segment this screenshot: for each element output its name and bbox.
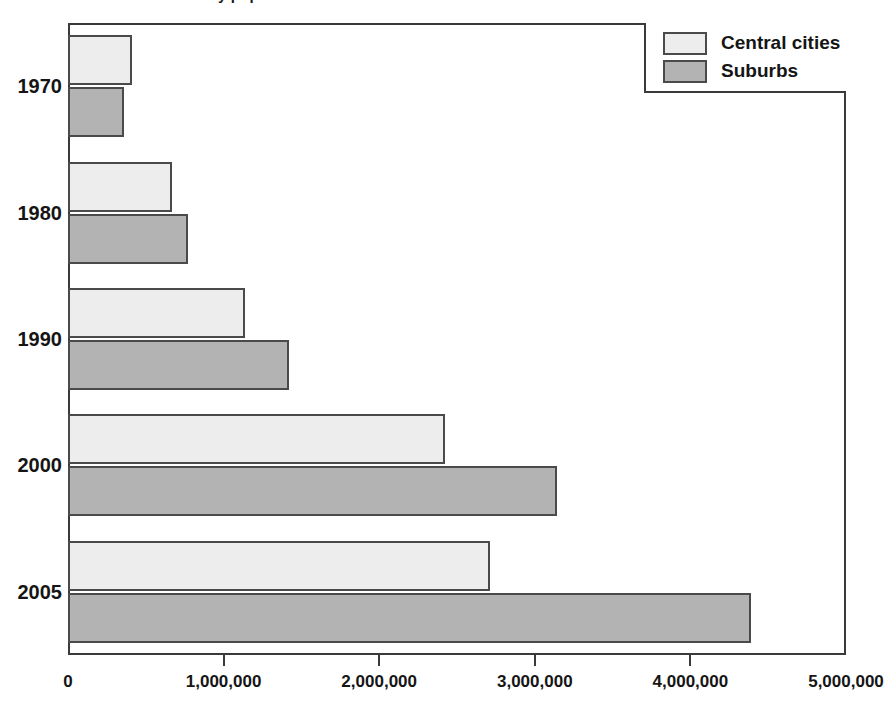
y-axis-label-1970: 1970 xyxy=(0,75,62,98)
x-axis-tick-label-3000000: 3,000,000 xyxy=(497,672,573,692)
legend-swatch-central-cities-icon xyxy=(663,32,707,55)
bar-1980-suburbs xyxy=(68,214,188,264)
legend-item-suburbs: Suburbs xyxy=(663,58,798,84)
legend-label-suburbs: Suburbs xyxy=(721,60,798,82)
y-axis-label-2000: 2000 xyxy=(0,454,62,477)
chart-legend: Central cities Suburbs xyxy=(644,23,846,93)
bar-1980-central-cities xyxy=(68,162,172,212)
clipped-chart-title: Poverty populations in central cities an… xyxy=(170,0,690,4)
bar-2005-suburbs xyxy=(68,593,751,643)
legend-label-central-cities: Central cities xyxy=(721,32,840,54)
bar-1990-central-cities xyxy=(68,288,245,338)
y-axis-label-1980: 1980 xyxy=(0,201,62,224)
bar-1990-suburbs xyxy=(68,340,289,390)
bar-2000-suburbs xyxy=(68,466,557,516)
x-axis-tick-label-4000000: 4,000,000 xyxy=(653,672,729,692)
bar-1970-central-cities xyxy=(68,35,132,85)
x-axis-tick-label-5000000: 5,000,000 xyxy=(808,672,884,692)
x-axis-tick-1000000 xyxy=(223,655,225,666)
y-axis-label-1990: 1990 xyxy=(0,328,62,351)
x-axis-tick-label-2000000: 2,000,000 xyxy=(341,672,417,692)
x-axis-tick-3000000 xyxy=(534,655,536,666)
x-axis-tick-4000000 xyxy=(689,655,691,666)
bars-layer xyxy=(68,23,846,655)
y-axis-label-2005: 2005 xyxy=(0,580,62,603)
bar-2000-central-cities xyxy=(68,414,445,464)
legend-swatch-suburbs-icon xyxy=(663,60,707,83)
x-axis-tick-label-1000000: 1,000,000 xyxy=(186,672,262,692)
x-axis-tick-2000000 xyxy=(378,655,380,666)
bar-2005-central-cities xyxy=(68,541,490,591)
legend-item-central-cities: Central cities xyxy=(663,30,840,56)
bar-chart-figure: Poverty populations in central cities an… xyxy=(0,0,892,717)
bar-1970-suburbs xyxy=(68,87,124,137)
x-axis-tick-label-0: 0 xyxy=(63,672,72,692)
